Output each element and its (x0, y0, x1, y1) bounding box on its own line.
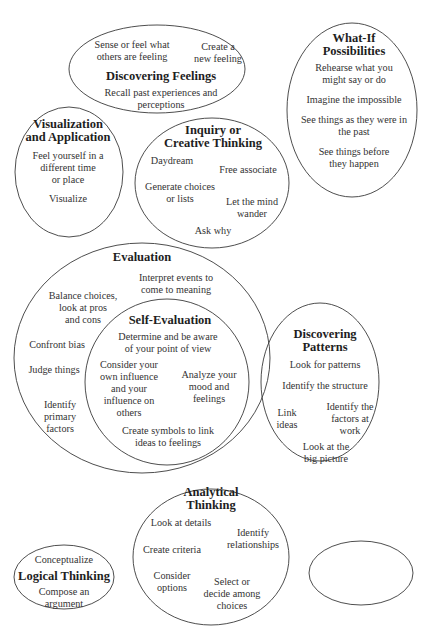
item: Create criteria (143, 544, 201, 555)
item: primary (44, 411, 77, 422)
item: relationships (227, 539, 279, 550)
node-title: Discovering Feelings (106, 69, 216, 83)
item: come to meaning (141, 284, 211, 295)
item: different time (40, 162, 96, 173)
node-what-if-possibilities: What-If Possibilities Rehearse what you … (287, 23, 417, 197)
item: Compose an (39, 586, 90, 597)
item: Balance choices, (49, 290, 117, 301)
item: or lists (166, 193, 193, 204)
node-title: Self-Evaluation (129, 313, 212, 327)
node-title: Inquiry or (185, 123, 241, 137)
item: look at pros (59, 302, 107, 313)
item: Free associate (219, 164, 277, 175)
item: ideas (277, 419, 298, 430)
item: Let the mind (226, 196, 278, 207)
node-discovering-patterns: Discovering Patterns Look for patterns I… (261, 303, 379, 464)
item: factors (46, 423, 74, 434)
node-discovering-feelings: Sense or feel what others are feeling Cr… (69, 25, 245, 113)
item: Conceptualize (35, 554, 94, 565)
item: Identify (44, 399, 77, 410)
item: Create a (201, 41, 235, 52)
item: options (157, 582, 187, 593)
item: influence on (104, 395, 155, 406)
item: own influence (100, 371, 158, 382)
ellipse-synthesizing (309, 541, 413, 605)
node-synthesizing (309, 541, 413, 605)
item: feelings (193, 393, 225, 404)
item: others (117, 407, 142, 418)
item: Rehearse what you (315, 62, 393, 73)
item: factors at (331, 413, 369, 424)
node-analytical-thinking: Analytical Thinking Look at details Iden… (133, 485, 289, 625)
item: choices (217, 600, 248, 611)
node-inquiry-creative-thinking: Inquiry or Creative Thinking Daydream Fr… (135, 118, 289, 248)
item: Select or (214, 576, 251, 587)
item: Sense or feel what (95, 39, 170, 50)
item: Create symbols to link (122, 425, 215, 436)
item: Imagine the impossible (306, 94, 402, 105)
item: Look at details (151, 517, 212, 528)
item: of your point of view (125, 343, 212, 354)
node-title: Visualization (33, 117, 103, 131)
item: mood and (189, 381, 229, 392)
item: Feel yourself in a (32, 150, 103, 161)
node-title: Creative Thinking (164, 136, 263, 150)
item: Determine and be aware (118, 331, 218, 342)
item: Consider (154, 570, 191, 581)
item: Confront bias (29, 339, 85, 350)
item: Look for patterns (290, 359, 361, 370)
item: Look at the (303, 441, 350, 452)
item: and your (111, 383, 148, 394)
node-self-evaluation: Self-Evaluation Determine and be aware o… (85, 299, 249, 465)
item: Interpret events to (139, 272, 213, 283)
item: Judge things (28, 364, 79, 375)
item: Generate choices (145, 181, 215, 192)
thinking-types-diagram: Sense or feel what others are feeling Cr… (0, 0, 438, 635)
item: Identify the structure (282, 380, 368, 391)
item: Consider your (100, 359, 159, 370)
item: decide among (204, 588, 261, 599)
item: big picture (304, 453, 348, 464)
node-title: and Application (25, 130, 110, 144)
item: ideas to feelings (135, 437, 201, 448)
item: Daydream (151, 155, 194, 166)
item: others are feeling (97, 51, 168, 62)
item: perceptions (138, 99, 185, 110)
item: Analyze your (181, 369, 237, 380)
node-title: Possibilities (323, 44, 386, 58)
node-title: Evaluation (113, 250, 171, 264)
node-title: Logical Thinking (18, 569, 111, 583)
node-title: Analytical (184, 485, 239, 499)
item: Identify the (326, 401, 374, 412)
item: wander (237, 208, 268, 219)
item: Recall past experiences and (105, 87, 218, 98)
item: work (340, 425, 362, 436)
item: Link (277, 407, 297, 418)
item: they happen (329, 158, 379, 169)
node-visualization-application: Visualization and Application Feel yours… (15, 107, 123, 237)
item: new feeling (194, 53, 242, 64)
item: argument (45, 598, 83, 609)
item: the past (338, 126, 370, 137)
node-title: What-If (332, 31, 376, 45)
node-title: Discovering (293, 327, 357, 341)
item: and cons (65, 314, 101, 325)
item: Visualize (49, 193, 87, 204)
item: See things as they were in (301, 114, 407, 125)
item: might say or do (322, 74, 386, 85)
node-logical-thinking: Conceptualize Logical Thinking Compose a… (14, 545, 114, 609)
node-title: Patterns (302, 340, 347, 354)
item: or place (52, 174, 85, 185)
item: Identify (237, 527, 270, 538)
node-title: Thinking (186, 498, 236, 512)
item: Ask why (195, 225, 232, 236)
item: See things before (319, 146, 390, 157)
